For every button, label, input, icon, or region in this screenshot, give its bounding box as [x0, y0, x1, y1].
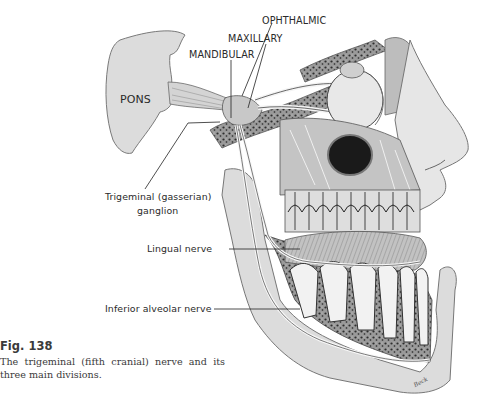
label-ophthalmic: OPHTHALMIC [262, 15, 326, 26]
label-pons: PONS [120, 93, 151, 106]
figure-number: Fig. 138 [0, 339, 52, 353]
eyeball [327, 62, 383, 130]
upper-teeth [285, 190, 420, 232]
leader-ganglion [145, 122, 220, 189]
label-ganglion-line1: Trigeminal (gasserian) [105, 191, 211, 202]
label-mandibular: MANDIBULAR [189, 49, 255, 60]
trigeminal-illustration [0, 0, 480, 403]
book-page: OPHTHALMIC MAXILLARY MANDIBULAR PONS Tri… [0, 0, 480, 403]
label-inferior-alveolar-nerve: Inferior alveolar nerve [105, 303, 212, 314]
label-ganglion-line2: ganglion [137, 205, 178, 216]
figure-caption: The trigeminal (fifth cranial) nerve and… [0, 355, 225, 381]
label-maxillary: MAXILLARY [228, 33, 283, 44]
label-lingual-nerve: Lingual nerve [147, 243, 212, 254]
